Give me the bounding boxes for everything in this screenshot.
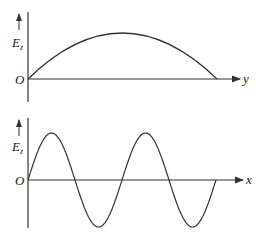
field-distribution-diagram: Ez O y Ez O x <box>0 0 263 244</box>
diagram-canvas <box>0 0 263 244</box>
bottom-x-label: x <box>246 173 252 186</box>
top-half-sine-curve <box>28 33 217 79</box>
bottom-origin-label: O <box>15 174 24 187</box>
bottom-panel <box>19 118 243 228</box>
top-ez-label: Ez <box>12 36 23 49</box>
top-y-label: y <box>243 72 249 85</box>
top-origin-label: O <box>15 73 24 86</box>
top-panel <box>19 12 240 102</box>
bottom-ez-label: Ez <box>12 140 23 153</box>
